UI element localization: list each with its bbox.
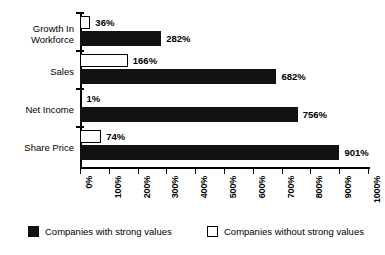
category-label: Growth In Workforce xyxy=(31,23,74,45)
x-axis-tick xyxy=(253,167,254,174)
bar-with-strong-values xyxy=(80,145,339,160)
group-separator xyxy=(76,12,84,14)
x-axis-tick xyxy=(368,167,369,174)
bar-without-strong-values xyxy=(80,54,128,67)
bar-value-label: 282% xyxy=(166,34,190,44)
category-label: Net Income xyxy=(25,104,74,115)
x-axis-tick xyxy=(224,167,225,174)
legend-label: Companies with strong values xyxy=(45,226,172,237)
x-tick-label: 300% xyxy=(170,176,180,198)
bar-with-strong-values xyxy=(80,107,298,122)
group-separator xyxy=(76,126,84,128)
legend-swatch-light xyxy=(207,226,218,237)
x-axis-tick xyxy=(138,167,139,174)
bar-without-strong-values xyxy=(80,92,82,105)
x-tick-label: 500% xyxy=(228,176,238,198)
bar-value-label: 74% xyxy=(106,132,125,142)
x-tick-label: 1000% xyxy=(372,176,382,203)
chart-legend: Companies with strong valuesCompanies wi… xyxy=(0,226,385,248)
x-tick-label: 400% xyxy=(199,176,209,198)
legend-item: Companies with strong values xyxy=(28,226,172,237)
x-tick-label: 900% xyxy=(343,176,353,198)
x-axis-line xyxy=(80,167,370,169)
bar-value-label: 36% xyxy=(95,18,114,28)
x-tick-label: 700% xyxy=(286,176,296,198)
x-axis-tick xyxy=(310,167,311,174)
x-tick-label: 600% xyxy=(257,176,267,198)
legend-swatch-dark xyxy=(28,226,39,237)
category-label: Sales xyxy=(50,66,74,77)
x-axis-tick xyxy=(195,167,196,174)
x-axis-tick xyxy=(109,167,110,174)
x-axis-tick xyxy=(166,167,167,174)
group-separator xyxy=(76,50,84,52)
x-axis-tick xyxy=(80,167,81,174)
bar-with-strong-values xyxy=(80,69,276,84)
bar-without-strong-values xyxy=(80,130,101,143)
bar-value-label: 682% xyxy=(281,72,305,82)
bar-with-strong-values xyxy=(80,31,161,46)
legend-item: Companies without strong values xyxy=(207,226,364,237)
legend-label: Companies without strong values xyxy=(224,226,364,237)
x-tick-label: 0% xyxy=(84,176,94,189)
x-tick-label: 200% xyxy=(142,176,152,198)
x-tick-label: 100% xyxy=(113,176,123,198)
bar-value-label: 756% xyxy=(303,110,327,120)
bar-chart: Growth In WorkforceSalesNet IncomeShare … xyxy=(0,0,385,255)
category-label: Share Price xyxy=(24,142,74,153)
bar-value-label: 901% xyxy=(344,148,368,158)
bar-value-label: 1% xyxy=(87,94,101,104)
plot-area: 36%282%166%682%1%756%74%901% xyxy=(80,14,368,167)
x-tick-label: 800% xyxy=(314,176,324,198)
x-axis-tick xyxy=(339,167,340,174)
x-axis-tick xyxy=(282,167,283,174)
bar-without-strong-values xyxy=(80,16,90,29)
bar-value-label: 166% xyxy=(133,56,157,66)
group-separator xyxy=(76,88,84,90)
